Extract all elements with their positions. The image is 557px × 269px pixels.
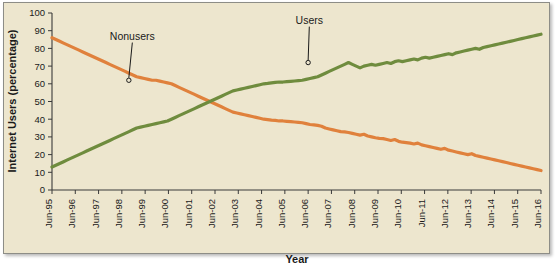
x-axis-title: Year bbox=[285, 253, 309, 265]
x-tick-label: Jun-13 bbox=[462, 199, 473, 228]
x-tick-label: Jun-97 bbox=[90, 199, 101, 228]
series-line-nonusers bbox=[52, 38, 541, 171]
y-tick-label: 80 bbox=[34, 43, 45, 54]
x-tick-label: Jun-95 bbox=[43, 199, 54, 228]
y-tick-label: 20 bbox=[34, 149, 45, 160]
chart-figure: 0102030405060708090100 Jun-95Jun-96Jun-9… bbox=[0, 0, 557, 269]
annotation-label-users: Users bbox=[296, 14, 323, 26]
x-tick-label: Jun-09 bbox=[369, 199, 380, 228]
x-tick-label: Jun-12 bbox=[439, 199, 450, 228]
annotation-marker bbox=[306, 60, 310, 64]
x-tick-label: Jun-14 bbox=[485, 199, 496, 228]
x-tick-label: Jun-16 bbox=[532, 199, 543, 228]
annotation-leader-line bbox=[308, 27, 309, 60]
x-tick-label: Jun-06 bbox=[299, 199, 310, 228]
x-tick-label: Jun-07 bbox=[322, 199, 333, 228]
x-tick-label: Jun-11 bbox=[416, 199, 427, 227]
annotation-label-nonusers: Nonusers bbox=[110, 30, 155, 42]
series-lines bbox=[52, 34, 541, 170]
y-tick-label: 40 bbox=[34, 114, 45, 125]
x-tick-label: Jun-99 bbox=[136, 199, 147, 228]
x-tick-marks bbox=[52, 190, 541, 194]
x-tick-label: Jun-96 bbox=[66, 199, 77, 228]
x-tick-label: Jun-10 bbox=[392, 199, 403, 228]
y-tick-label: 50 bbox=[34, 96, 45, 107]
x-tick-label: Jun-01 bbox=[183, 199, 194, 228]
y-tick-labels: 0102030405060708090100 bbox=[29, 7, 45, 195]
y-tick-marks bbox=[48, 13, 52, 190]
y-tick-label: 30 bbox=[34, 131, 45, 142]
y-tick-label: 60 bbox=[34, 78, 45, 89]
x-tick-labels: Jun-95Jun-96Jun-97Jun-98Jun-99Jun-00Jun-… bbox=[43, 199, 543, 228]
line-chart: 0102030405060708090100 Jun-95Jun-96Jun-9… bbox=[0, 0, 557, 269]
x-tick-label: Jun-02 bbox=[206, 199, 217, 228]
x-tick-label: Jun-15 bbox=[509, 199, 520, 228]
annotation-marker bbox=[127, 78, 131, 82]
x-tick-label: Jun-04 bbox=[253, 199, 264, 228]
y-tick-label: 90 bbox=[34, 25, 45, 36]
y-tick-label: 70 bbox=[34, 61, 45, 72]
y-tick-label: 10 bbox=[34, 167, 45, 178]
x-tick-label: Jun-08 bbox=[346, 199, 357, 228]
y-axis-title: Internet Users (percentage) bbox=[6, 29, 18, 172]
chart-annotations: NonusersUsers bbox=[110, 14, 323, 83]
x-tick-label: Jun-98 bbox=[113, 199, 124, 228]
x-tick-label: Jun-05 bbox=[276, 199, 287, 228]
series-line-users bbox=[52, 34, 541, 167]
y-tick-label: 100 bbox=[29, 7, 45, 18]
y-tick-label: 0 bbox=[40, 184, 45, 195]
x-tick-label: Jun-00 bbox=[159, 199, 170, 228]
x-tick-label: Jun-03 bbox=[229, 199, 240, 228]
